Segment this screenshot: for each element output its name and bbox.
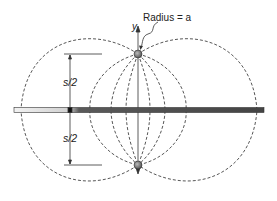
field-line-diagram: Radius = a y s/2 s/2 — [0, 0, 277, 201]
lower-conductor — [134, 161, 142, 169]
ground-plane — [14, 108, 264, 113]
radius-label: Radius = a — [143, 12, 192, 23]
radius-leader — [141, 22, 158, 48]
upper-conductor — [134, 50, 142, 58]
y-axis-label: y — [131, 21, 138, 32]
lower-half-spacing-label: s/2 — [63, 132, 77, 144]
radius-arrow — [139, 46, 143, 51]
y-axis — [136, 26, 140, 174]
upper-half-spacing-label: s/2 — [63, 76, 77, 88]
